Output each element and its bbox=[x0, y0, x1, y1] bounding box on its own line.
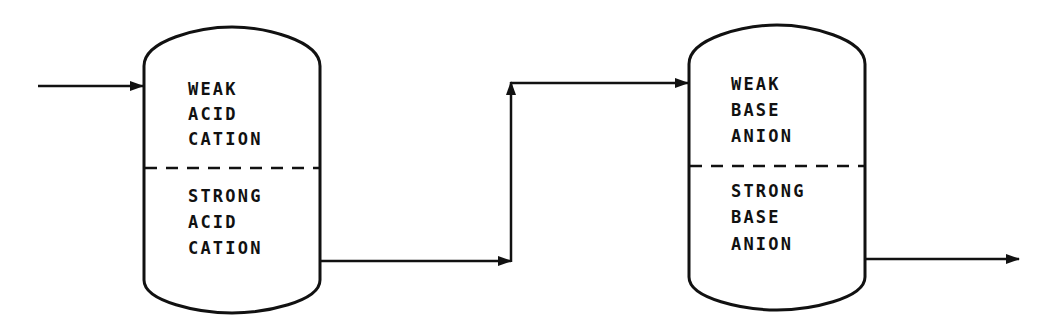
anion-lower-line-1: STRONG bbox=[731, 183, 806, 200]
cation-upper-line-2: ACID bbox=[188, 106, 238, 123]
anion-upper-line-3: ANION bbox=[731, 128, 793, 145]
cation-lower-line-1: STRONG bbox=[188, 188, 263, 205]
anion-lower-line-3: ANION bbox=[731, 236, 793, 253]
anion-lower-line-2: BASE bbox=[731, 209, 781, 226]
cation-vessel bbox=[144, 27, 320, 313]
cation-lower-line-2: ACID bbox=[188, 214, 238, 231]
cation-upper-line-3: CATION bbox=[188, 131, 263, 148]
anion-upper-line-2: BASE bbox=[731, 102, 781, 119]
cation-upper-line-1: WEAK bbox=[188, 81, 238, 98]
anion-vessel bbox=[689, 25, 865, 310]
cation-lower-line-3: CATION bbox=[188, 240, 263, 257]
anion-vessel-shell bbox=[689, 25, 865, 310]
anion-upper-line-1: WEAK bbox=[731, 76, 781, 93]
ion-exchange-diagram bbox=[0, 0, 1049, 328]
cation-vessel-shell bbox=[144, 27, 320, 313]
